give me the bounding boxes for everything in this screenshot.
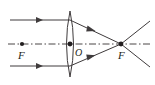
arrowhead-refracted-upper-icon	[86, 26, 95, 32]
optical-center-marker	[68, 42, 73, 47]
label-focal-point-right: F	[118, 50, 125, 61]
arrowhead-incident-upper-icon	[36, 17, 43, 23]
arrowhead-refracted-lower-icon	[86, 55, 95, 61]
diverging-ray-upper	[121, 21, 150, 44]
arrowhead-incident-lower-icon	[36, 63, 43, 69]
label-optical-center: O	[75, 48, 82, 58]
ray-diagram-canvas	[0, 0, 155, 85]
label-focal-point-left: F	[18, 50, 25, 61]
optics-ray-diagram: F O F	[0, 0, 155, 85]
diverging-ray-lower	[121, 44, 150, 67]
focal-point-left-marker	[20, 42, 24, 46]
refracted-ray-upper	[70, 20, 121, 44]
focal-point-right-marker	[119, 42, 124, 47]
